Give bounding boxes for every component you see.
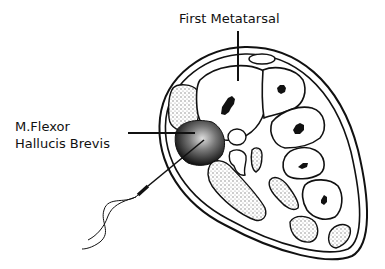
label-muscle-line1: M.Flexor	[15, 119, 70, 135]
needle-hub	[138, 186, 148, 195]
label-muscle-line2: Hallucis Brevis	[15, 136, 110, 152]
electrode-wire-2	[88, 197, 136, 240]
tendon-small	[228, 129, 246, 145]
label-first-metatarsal: First Metatarsal	[179, 11, 280, 27]
electrode-wire	[82, 195, 138, 249]
tendon-top	[249, 54, 275, 64]
